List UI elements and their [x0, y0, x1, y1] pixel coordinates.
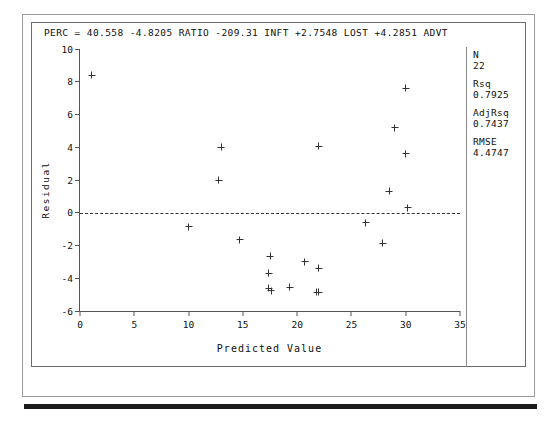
x-axis-label: Predicted Value — [79, 343, 460, 354]
y-axis-label-text: Residual — [40, 161, 51, 219]
x-axis-tick-label: 0 — [77, 319, 83, 330]
data-point-marker — [268, 287, 275, 294]
x-axis-tick-mark — [405, 311, 406, 316]
y-axis-tick-label: 8 — [67, 76, 73, 87]
y-axis-tick-label: -2 — [62, 240, 73, 251]
stats-panel-divider — [466, 47, 467, 367]
x-axis-tick-mark — [351, 311, 352, 316]
bottom-accent-bar — [24, 404, 537, 409]
y-axis-tick-mark — [75, 278, 80, 279]
y-axis-tick: -2 — [46, 245, 80, 246]
data-point-marker — [267, 253, 274, 260]
stat-block: Rsq0.7925 — [473, 78, 509, 100]
x-axis-tick-label: 15 — [237, 319, 248, 330]
y-axis-tick: 4 — [46, 147, 80, 148]
data-point-marker — [185, 223, 192, 230]
data-point-marker — [402, 85, 409, 92]
statistics-panel: N22Rsq0.7925AdjRsq0.7437RMSE4.4747 — [473, 49, 509, 165]
x-axis-tick: 25 — [336, 311, 366, 331]
chart-axes: 1086420-2-4-605101520253035 — [79, 49, 460, 312]
x-axis-tick: 10 — [174, 311, 204, 331]
y-axis-label: Residual — [40, 71, 54, 371]
data-point-marker — [315, 143, 322, 150]
x-axis-tick: 0 — [65, 311, 95, 331]
data-point-marker — [218, 144, 225, 151]
data-point-marker — [286, 284, 293, 291]
stat-value: 22 — [473, 60, 509, 71]
data-point-marker — [265, 270, 272, 277]
y-axis-tick-mark — [75, 212, 80, 213]
data-point-marker — [386, 188, 393, 195]
data-point-marker — [362, 219, 369, 226]
y-axis-tick-mark — [75, 180, 80, 181]
model-equation-title: PERC = 40.558 -4.8205 RATIO -209.31 INFT… — [44, 27, 448, 38]
x-axis-tick-mark — [460, 311, 461, 316]
y-axis-tick-label: -4 — [62, 273, 73, 284]
data-point-marker — [404, 204, 411, 211]
stat-name: AdjRsq — [473, 107, 509, 118]
chart-plot-area — [80, 49, 460, 311]
data-point-marker — [301, 258, 308, 265]
x-axis-tick-label: 10 — [183, 319, 194, 330]
y-axis-tick-label: 2 — [67, 175, 73, 186]
y-axis-tick: 6 — [46, 114, 80, 115]
data-point-marker — [215, 177, 222, 184]
stat-block: RMSE4.4747 — [473, 136, 509, 158]
x-axis-tick-mark — [188, 311, 189, 316]
y-axis-tick-label: 10 — [62, 44, 73, 55]
y-axis-tick-mark — [75, 81, 80, 82]
stat-block: N22 — [473, 49, 509, 71]
data-point-marker — [265, 285, 272, 292]
plot-output-box: PERC = 40.558 -4.8205 RATIO -209.31 INFT… — [31, 22, 526, 367]
data-point-marker — [391, 124, 398, 131]
stat-block: AdjRsq0.7437 — [473, 107, 509, 129]
y-axis-tick: 10 — [46, 49, 80, 50]
stat-name: RMSE — [473, 136, 509, 147]
x-axis-tick-mark — [134, 311, 135, 316]
y-axis-tick-mark — [75, 49, 80, 50]
stat-value: 4.4747 — [473, 147, 509, 158]
y-axis-tick: 0 — [46, 212, 80, 213]
data-point-marker — [379, 240, 386, 247]
data-point-marker — [402, 150, 409, 157]
x-axis-tick-label: 25 — [346, 319, 357, 330]
y-axis-tick: 2 — [46, 180, 80, 181]
x-axis-tick-label: 20 — [291, 319, 302, 330]
y-axis-tick-mark — [75, 245, 80, 246]
x-axis-tick-label: 30 — [400, 319, 411, 330]
y-axis-tick-label: 4 — [67, 142, 73, 153]
y-axis-tick: -4 — [46, 278, 80, 279]
data-point-marker — [315, 265, 322, 272]
y-axis-tick-mark — [75, 147, 80, 148]
x-axis-tick: 30 — [391, 311, 421, 331]
stat-name: N — [473, 49, 509, 60]
stat-value: 0.7437 — [473, 118, 509, 129]
data-point-marker — [313, 289, 320, 296]
x-axis-tick-mark — [242, 311, 243, 316]
data-point-marker — [315, 289, 322, 296]
x-axis-tick: 20 — [282, 311, 312, 331]
data-point-marker — [236, 236, 243, 243]
x-axis-tick-label: 5 — [131, 319, 137, 330]
y-axis-tick-label: 0 — [67, 207, 73, 218]
y-axis-tick: 8 — [46, 81, 80, 82]
x-axis-tick-label: 35 — [454, 319, 465, 330]
x-axis-tick-mark — [297, 311, 298, 316]
data-point-marker — [88, 72, 95, 79]
x-axis-tick-mark — [80, 311, 81, 316]
y-axis-tick-mark — [75, 114, 80, 115]
x-axis-tick: 15 — [228, 311, 258, 331]
stat-name: Rsq — [473, 78, 509, 89]
x-axis-tick: 35 — [445, 311, 475, 331]
x-axis-tick: 5 — [119, 311, 149, 331]
y-axis-tick-label: 6 — [67, 109, 73, 120]
stat-value: 0.7925 — [473, 89, 509, 100]
zero-reference-line — [80, 213, 460, 214]
